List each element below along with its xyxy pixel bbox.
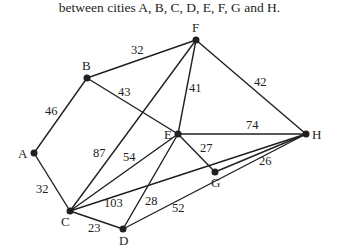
label-D: D xyxy=(119,233,128,248)
label-A: A xyxy=(18,146,28,161)
node-E xyxy=(175,131,182,138)
weight-E-C: 54 xyxy=(123,150,136,164)
weight-C-H: 103 xyxy=(104,196,123,210)
weight-E-H: 74 xyxy=(246,118,259,132)
weight-E-D: 28 xyxy=(145,194,158,208)
label-H: H xyxy=(312,127,321,142)
label-C: C xyxy=(61,214,70,229)
node-D xyxy=(120,226,127,233)
edge-weights: 46 32 32 43 41 42 87 74 27 54 28 103 23 … xyxy=(36,43,272,235)
weight-F-H: 42 xyxy=(254,75,267,89)
node-H xyxy=(303,131,310,138)
weighted-graph: A B C D E F G H 46 32 32 43 41 42 87 74 … xyxy=(0,0,339,251)
node-B xyxy=(84,75,91,82)
weight-F-C: 87 xyxy=(93,146,106,160)
weight-C-D: 23 xyxy=(88,221,101,235)
weight-G-H: 26 xyxy=(259,154,272,168)
node-A xyxy=(31,150,38,157)
weight-A-C: 32 xyxy=(36,182,49,196)
label-E: E xyxy=(164,127,172,142)
weight-E-G: 27 xyxy=(200,141,213,155)
edge-A-B xyxy=(34,78,87,153)
node-F xyxy=(193,37,200,44)
edge-E-C xyxy=(70,134,178,211)
label-B: B xyxy=(82,58,91,73)
weight-F-E: 41 xyxy=(189,81,202,95)
label-G: G xyxy=(211,175,220,190)
weight-B-F: 32 xyxy=(131,43,144,57)
weight-B-E: 43 xyxy=(118,85,131,99)
label-F: F xyxy=(192,20,199,35)
weight-A-B: 46 xyxy=(45,104,58,118)
weight-D-H: 52 xyxy=(172,201,185,215)
